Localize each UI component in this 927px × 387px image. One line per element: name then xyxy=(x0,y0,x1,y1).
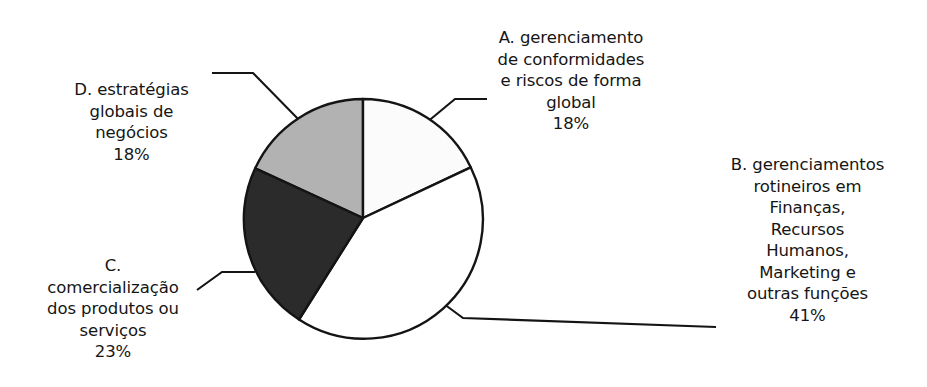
pie-label-a: A. gerenciamento de conformidades e risc… xyxy=(466,6,676,156)
pie-label-d-text: D. estratégias globais de negócios xyxy=(74,80,188,142)
pie-label-b-percent: 41% xyxy=(700,305,915,326)
pie-label-d: D. estratégias globais de negócios 18% xyxy=(44,58,219,187)
pie-label-c-text: C. comercialização dos produtos ou servi… xyxy=(47,256,179,339)
pie-label-a-text: A. gerenciamento de conformidades e risc… xyxy=(498,28,645,111)
pie-label-d-percent: 18% xyxy=(44,144,219,165)
pie-label-a-percent: 18% xyxy=(466,113,676,134)
leader-line-d xyxy=(212,73,303,124)
pie-label-c-percent: 23% xyxy=(6,341,220,362)
leader-line-b xyxy=(444,304,716,327)
pie-chart-figure: A. gerenciamento de conformidades e risc… xyxy=(0,0,927,387)
pie-label-c: C. comercialização dos produtos ou servi… xyxy=(6,234,220,384)
pie-label-b-text: B. gerenciamentos rotineiros em Finanças… xyxy=(731,155,884,303)
pie-label-b: B. gerenciamentos rotineiros em Finanças… xyxy=(700,133,915,347)
